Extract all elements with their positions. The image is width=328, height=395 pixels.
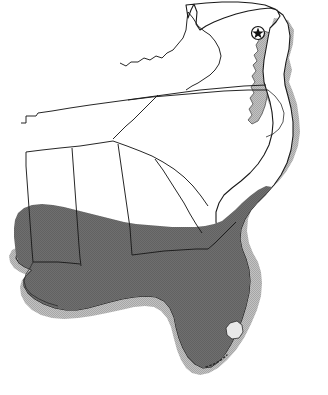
- capital-star-marker[interactable]: [252, 27, 265, 40]
- map-canvas: [0, 0, 328, 395]
- distribution-range-map: Southeastern United States distribution …: [0, 0, 328, 395]
